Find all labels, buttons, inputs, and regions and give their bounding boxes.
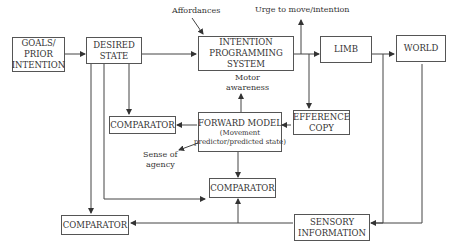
affordances-label: Affordances <box>172 6 220 16</box>
comparator-box-1: COMPARATOR <box>109 116 176 134</box>
intention-programming-box: INTENTION PROGRAMMING SYSTEM <box>198 36 294 71</box>
world-box: WORLD <box>396 35 446 62</box>
sensory-information-box: SENSORY INFORMATION <box>294 214 370 241</box>
goals-box: GOALS/ PRIOR INTENTION <box>12 37 65 72</box>
motor-awareness-label: Motor awareness <box>226 73 269 93</box>
limb-box: LIMB <box>320 36 372 63</box>
desired-state-box: DESIRED STATE <box>86 37 142 64</box>
urge-to-move-label: Urge to move/intention <box>255 5 349 15</box>
sense-of-agency-label: Sense of agency <box>143 150 178 170</box>
comparator-box-3: COMPARATOR <box>61 215 129 235</box>
comparator-box-2: COMPARATOR <box>209 178 276 198</box>
forward-model-box: FORWARD MODEL (Movement predictor/predic… <box>198 112 282 152</box>
efference-copy-box: EFFERENCE COPY <box>293 110 350 135</box>
